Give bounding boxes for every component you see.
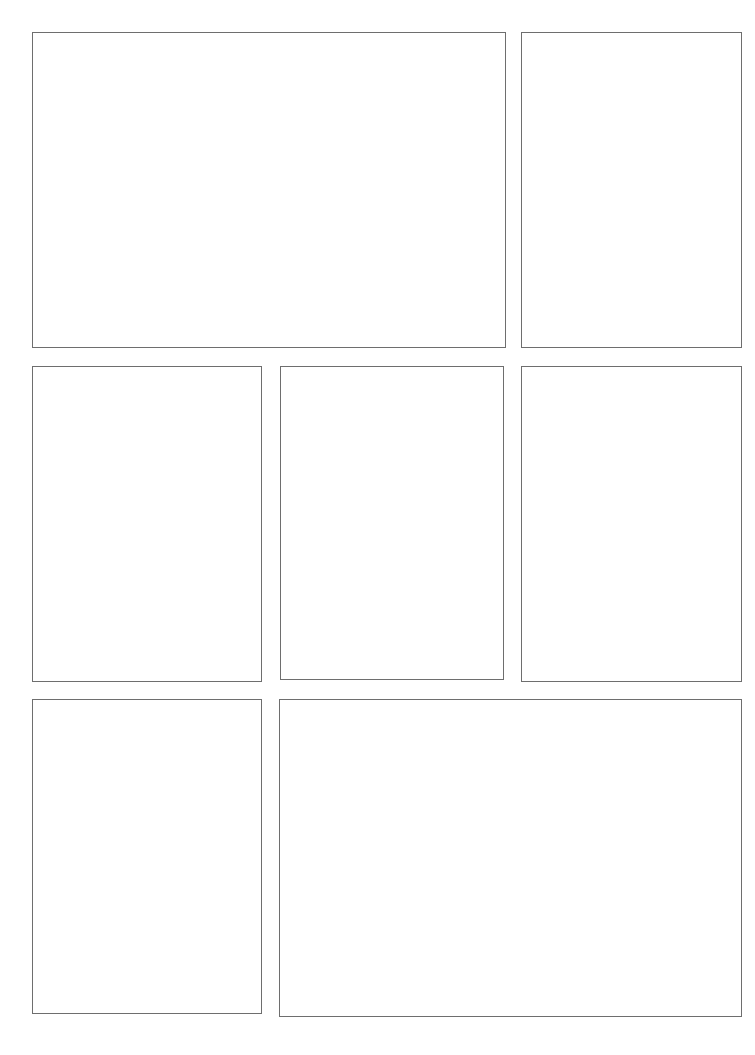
panel-row3-right[interactable] — [279, 699, 742, 1017]
panel-row2-left[interactable] — [32, 366, 262, 682]
panel-row2-middle-content — [281, 367, 503, 679]
panel-row3-left-content — [33, 700, 261, 1013]
panel-row2-left-content — [33, 367, 261, 681]
panel-row2-right-content — [522, 367, 741, 681]
page-canvas — [0, 0, 755, 1055]
panel-row1-right-content — [522, 33, 741, 347]
panel-row3-left[interactable] — [32, 699, 262, 1014]
panel-row3-right-content — [280, 700, 741, 1016]
panel-row1-left-content — [33, 33, 505, 347]
panel-row2-middle[interactable] — [280, 366, 504, 680]
panel-row2-right[interactable] — [521, 366, 742, 682]
panel-row1-left[interactable] — [32, 32, 506, 348]
panel-row1-right[interactable] — [521, 32, 742, 348]
